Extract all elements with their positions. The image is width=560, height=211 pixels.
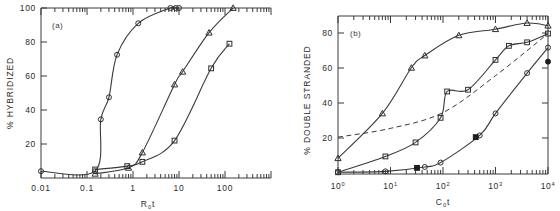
panel-a-ytick-20: 20 <box>25 139 36 149</box>
series-line-mid-squares <box>338 34 548 173</box>
panel-b-x-tick-labels: 100101102103104 <box>331 181 556 191</box>
panel-b-xtick-10e0: 100 <box>331 181 346 191</box>
panel-a-ytick-40: 40 <box>25 105 36 115</box>
svg-text:R0t: R0t <box>141 199 155 210</box>
series-line-theoretical-dashed <box>338 34 548 138</box>
panel-b-x-ticks <box>338 16 548 174</box>
series-line-curve-middle-triangles <box>95 8 233 174</box>
panel-b-xlabel-main: C <box>436 197 443 207</box>
panel-a-xtick-10: 10 <box>174 183 185 193</box>
panel-a-markers <box>39 5 237 176</box>
figure-svg: 100 80 60 40 20 0.01 0.1 1 10 100 % HYBR… <box>0 0 560 211</box>
panel-a-xtick-1: 1 <box>130 183 135 193</box>
panel-a-y-axis-title: % HYBRIDIZED <box>5 57 15 129</box>
panel-b: 80 60 40 20 100101102103104 % DOUBLE STR… <box>302 16 555 208</box>
panel-b-ytick-20: 20 <box>322 133 333 143</box>
series-line-curve-left-circles <box>41 7 179 175</box>
panel-b-label: (b) <box>350 29 361 38</box>
panel-b-y-ticks <box>338 33 548 138</box>
panel-b-xtick-10e2: 102 <box>436 181 451 191</box>
panel-a-xlabel-main: R <box>141 199 148 209</box>
panel-a-label: (a) <box>52 21 63 30</box>
panel-b-xtick-10e1: 101 <box>383 181 398 191</box>
panel-b-curves <box>338 23 548 172</box>
panel-a-x-axis-title: R0t <box>141 199 155 210</box>
data-point-filled-squares <box>473 135 478 140</box>
panel-a-ytick-100: 100 <box>20 3 36 13</box>
panel-a-x-ticks <box>41 8 271 178</box>
panel-b-xlabel-tail: t <box>447 197 450 207</box>
panel-a-xtick-0p01: 0.01 <box>31 183 50 193</box>
panel-b-ytick-40: 40 <box>322 98 333 108</box>
panel-b-ytick-80: 80 <box>322 28 333 38</box>
panel-b-x-axis-title: C0t <box>436 197 450 208</box>
panel-a-xtick-100: 100 <box>217 183 233 193</box>
panel-a-xlabel-tail: t <box>152 199 155 209</box>
figure-container: 100 80 60 40 20 0.01 0.1 1 10 100 % HYBR… <box>0 0 560 211</box>
data-point-filled-squares <box>415 165 420 170</box>
data-point-filled-circle <box>546 59 551 64</box>
panel-b-xtick-10e4: 104 <box>541 181 556 191</box>
panel-a: 100 80 60 40 20 0.01 0.1 1 10 100 % HYBR… <box>5 3 271 210</box>
panel-a-ytick-80: 80 <box>25 37 36 47</box>
panel-a-ytick-60: 60 <box>25 71 36 81</box>
panel-a-y-ticks <box>41 8 47 144</box>
panel-a-xtick-0p1: 0.1 <box>80 183 94 193</box>
series-line-fast-triangles <box>338 23 548 158</box>
panel-b-y-axis-title: % DOUBLE STRANDED <box>302 45 312 154</box>
svg-text:C0t: C0t <box>436 197 450 208</box>
panel-b-ytick-60: 60 <box>322 63 333 73</box>
panel-a-curves <box>41 7 233 175</box>
panel-b-xtick-10e3: 103 <box>488 181 503 191</box>
